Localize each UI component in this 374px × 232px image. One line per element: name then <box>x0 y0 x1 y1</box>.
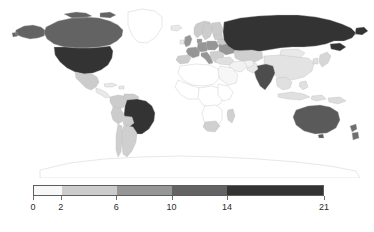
country-peru <box>111 107 124 124</box>
legend-swatch-2 <box>117 186 172 195</box>
legend-tick-label-0: 0 <box>30 201 35 213</box>
legend-tick-label-5: 21 <box>319 201 329 213</box>
legend-bar <box>33 185 324 196</box>
legend-tick-4 <box>227 196 228 200</box>
world-map-figure: 026101421 <box>0 0 374 232</box>
legend-tick-1 <box>61 196 62 200</box>
world-map-svg <box>0 0 374 178</box>
legend-tick-5 <box>324 196 325 200</box>
country-australia <box>293 105 340 138</box>
legend-colorbar: 026101421 <box>0 178 374 232</box>
country-mexico <box>75 72 99 90</box>
legend-swatch-0 <box>34 186 62 195</box>
country-kazakhstan <box>234 50 263 62</box>
country-united-states <box>54 46 113 74</box>
country-denmark <box>197 39 202 43</box>
region-korea <box>313 58 318 64</box>
region-baltics <box>214 34 223 40</box>
legend-tick-labels: 026101421 <box>0 201 374 217</box>
legend-tick-label-2: 6 <box>114 201 119 213</box>
legend-swatch-1 <box>62 186 117 195</box>
legend-tick-2 <box>116 196 117 200</box>
country-greenland <box>128 9 162 43</box>
country-spain <box>176 55 191 64</box>
country-madagascar <box>227 109 235 123</box>
region-central-america <box>96 88 110 98</box>
legend-tick-label-4: 14 <box>222 201 232 213</box>
legend-swatch-4 <box>227 186 323 195</box>
country-papua-new-guinea <box>328 97 346 104</box>
legend-tick-label-1: 2 <box>58 201 63 213</box>
country-iceland <box>171 25 182 31</box>
country-canada <box>44 12 123 48</box>
region-caribbean <box>104 83 124 89</box>
country-indonesia <box>278 92 326 101</box>
country-russia <box>223 15 368 52</box>
country-japan <box>319 52 331 67</box>
map-area <box>0 0 374 178</box>
legend-tick-label-3: 10 <box>167 201 177 213</box>
legend-swatch-3 <box>172 186 227 195</box>
country-ireland <box>180 40 184 44</box>
legend-tick-3 <box>172 196 173 200</box>
legend-tick-0 <box>33 196 34 200</box>
country-new-zealand <box>350 124 359 140</box>
country-chile <box>116 124 122 157</box>
country-sweden <box>202 23 213 40</box>
country-argentina <box>121 125 137 157</box>
country-united-kingdom <box>184 35 192 47</box>
continent-antarctica <box>40 156 360 178</box>
country-philippines <box>299 81 308 90</box>
country-alaska <box>12 25 46 39</box>
country-south-africa <box>203 121 220 132</box>
